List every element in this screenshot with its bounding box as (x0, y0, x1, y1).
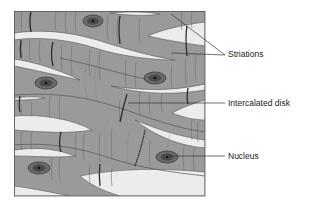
nucleus-5 (28, 162, 50, 174)
nucleus-1 (83, 15, 103, 27)
tissue-region (14, 11, 205, 196)
nucleus-3 (144, 72, 166, 84)
label-nucleus: Nucleus (228, 152, 259, 161)
label-intercalated-disk: Intercalated disk (228, 99, 290, 108)
label-striations: Striations (228, 50, 263, 59)
nucleus-2 (35, 77, 57, 89)
nucleus-4 (156, 151, 178, 163)
